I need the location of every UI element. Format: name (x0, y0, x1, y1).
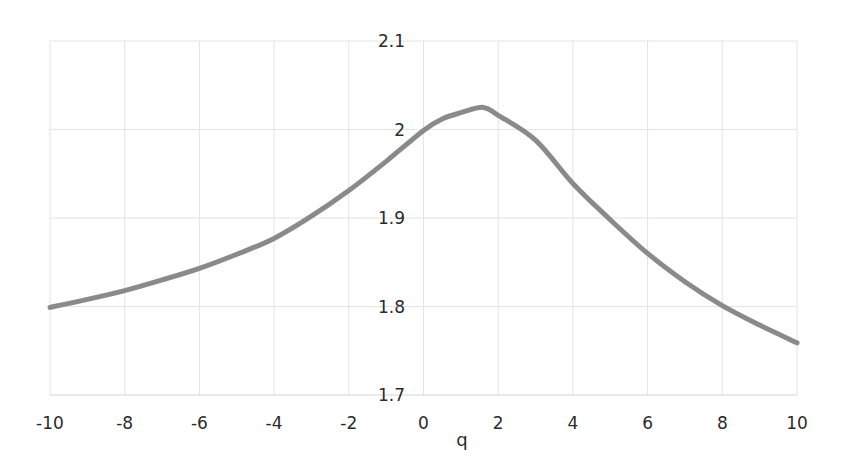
y-tick-label: 1.9 (378, 208, 405, 228)
y-tick-label: 2.1 (378, 31, 405, 51)
x-tick-label: -10 (36, 413, 64, 433)
y-tick-label: 1.8 (378, 297, 405, 317)
x-tick-label: -6 (191, 413, 208, 433)
x-tick-label: -2 (340, 413, 357, 433)
y-tick-label: 2 (394, 120, 405, 140)
y-tick-label: 1.7 (378, 385, 405, 405)
y-axis-tick-labels: 1.71.81.922.1 (378, 31, 405, 405)
grid-lines (50, 41, 797, 395)
x-tick-label: 0 (418, 413, 429, 433)
x-tick-label: -8 (116, 413, 133, 433)
x-tick-label: 8 (717, 413, 728, 433)
x-tick-label: -4 (266, 413, 283, 433)
x-tick-label: 2 (493, 413, 504, 433)
x-tick-label: 10 (786, 413, 808, 433)
line-chart: 1.71.81.922.1 -10-8-6-4-20246810 q (0, 0, 845, 472)
x-axis-title: q (456, 429, 467, 450)
x-tick-label: 6 (642, 413, 653, 433)
x-tick-label: 4 (567, 413, 578, 433)
x-axis-tick-labels: -10-8-6-4-20246810 (36, 413, 808, 433)
